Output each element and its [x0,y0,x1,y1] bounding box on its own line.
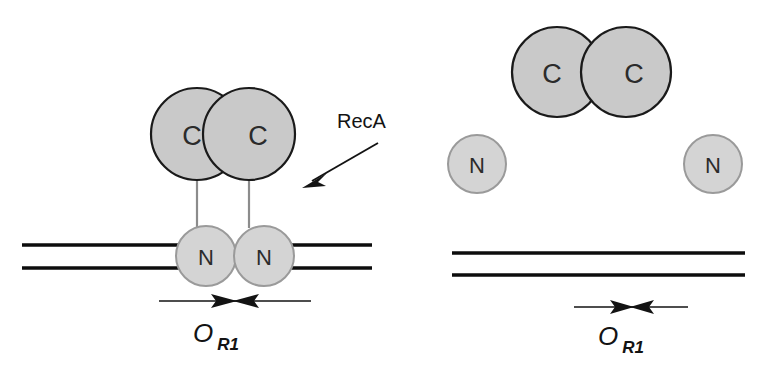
c-domain-label: C [248,121,268,151]
n-domain-right-2: N [684,135,742,193]
reca-annotation: RecA [302,110,387,188]
n-domain-label: N [469,153,485,178]
domain-linkers-left [197,180,249,228]
reca-arrow-shaft [312,143,378,181]
n-domain-left-1: N [176,226,236,286]
operator-label-right: O R1 [598,321,644,357]
operator-label-left: O R1 [193,318,239,354]
panel-right-repressor-cleaved: C C N N O [448,27,745,357]
operator-label-subscript: R1 [622,338,644,357]
dna-duplex-right [452,253,745,275]
panel-left-repressor-bound: N N C C O [22,88,372,354]
operator-marker-left [159,294,311,308]
diagram-svg: N N C C O [0,0,768,381]
c-domain-label: C [624,59,644,89]
c-domain-left-2: C [203,88,295,180]
n-domain-label: N [705,153,721,178]
n-domain-label: N [256,245,272,270]
operator-label-main: O [598,321,618,351]
figure-canvas: N N C C O [0,0,768,381]
reca-arrow-head [302,173,327,188]
operator-label-subscript: R1 [217,335,239,354]
reca-label: RecA [337,110,387,132]
n-domain-right-1: N [448,135,506,193]
c-domain-right-2: C [581,27,671,117]
operator-marker-right [574,300,688,314]
n-domain-left-2: N [234,226,294,286]
c-domain-label: C [542,59,562,89]
operator-label-main: O [193,318,213,348]
n-domain-label: N [198,245,214,270]
c-domain-label: C [182,121,202,151]
